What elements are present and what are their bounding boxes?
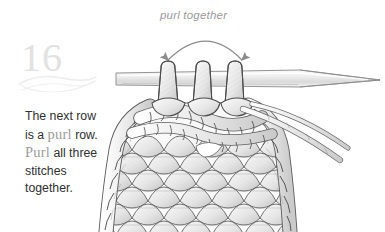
purl-together-label: purl together — [160, 9, 227, 21]
instruction-seg: all three — [50, 146, 97, 160]
step-number: 16 — [21, 38, 63, 78]
instruction-text: The next row is a purl row. Purl all thr… — [25, 108, 143, 198]
instruction-line-1: The next row — [25, 108, 143, 126]
stitch-loop-1 — [152, 61, 185, 116]
instruction-line-3: Purl all three — [25, 144, 143, 163]
instruction-seg: stitches — [25, 164, 67, 178]
three-stitch-loops — [152, 61, 253, 116]
illustration-page: 16 purl together The next row is a purl … — [0, 0, 385, 232]
instruction-emphasis-purl: purl — [48, 126, 72, 142]
instruction-seg: row. — [72, 128, 98, 142]
knitting-needle — [116, 70, 380, 87]
instruction-seg: is a — [25, 128, 48, 142]
instruction-emphasis-purl-capital: Purl — [25, 144, 50, 160]
purl-together-arrow — [168, 41, 242, 60]
instruction-line-2: is a purl row. — [25, 126, 143, 145]
instruction-seg: The next row — [25, 109, 96, 123]
instruction-line-5: together. — [25, 180, 143, 198]
instruction-seg: together. — [25, 181, 73, 195]
instruction-line-4: stitches — [25, 163, 143, 181]
stitch-loop-2 — [188, 61, 220, 116]
